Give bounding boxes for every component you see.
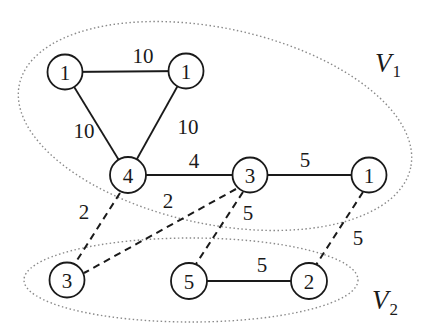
svg-text:2: 2 bbox=[304, 270, 315, 294]
partition-v1-boundary bbox=[0, 0, 431, 263]
edge-label-e-h: 5 bbox=[353, 226, 364, 250]
node-b: 1 bbox=[169, 54, 204, 89]
node-h: 2 bbox=[291, 263, 327, 299]
edge-label-d-g: 5 bbox=[243, 201, 254, 225]
svg-text:4: 4 bbox=[123, 164, 134, 188]
edge-label-b-c: 10 bbox=[178, 115, 199, 139]
partition-v2-label: V2 bbox=[372, 285, 398, 319]
node-c: 4 bbox=[110, 157, 146, 193]
svg-text:5: 5 bbox=[184, 270, 195, 294]
node-e: 1 bbox=[352, 158, 387, 193]
edge-label-d-f: 2 bbox=[163, 189, 174, 213]
edge-d-g bbox=[196, 192, 243, 264]
node-g: 5 bbox=[171, 263, 207, 299]
partition-v1-label: V1 bbox=[375, 48, 401, 81]
edge-label-d-e: 5 bbox=[300, 148, 311, 172]
node-f: 3 bbox=[50, 263, 85, 298]
svg-text:3: 3 bbox=[62, 269, 73, 293]
edge-label-c-d: 4 bbox=[189, 149, 200, 173]
svg-text:1: 1 bbox=[60, 61, 71, 85]
edge-label-a-c: 10 bbox=[74, 119, 95, 143]
edge-label-a-b: 10 bbox=[133, 44, 154, 68]
graph-diagram: V1 V2 10 10 10 4 5 2 2 5 5 5 1 1 4 3 1 bbox=[0, 0, 433, 333]
svg-text:1: 1 bbox=[364, 164, 375, 188]
edge-label-g-h: 5 bbox=[257, 253, 268, 277]
node-a: 1 bbox=[48, 55, 83, 90]
edge-d-f bbox=[84, 189, 236, 273]
svg-text:1: 1 bbox=[181, 60, 192, 84]
svg-text:3: 3 bbox=[245, 164, 256, 188]
node-d: 3 bbox=[233, 158, 268, 193]
edge-label-c-f: 2 bbox=[79, 200, 90, 224]
